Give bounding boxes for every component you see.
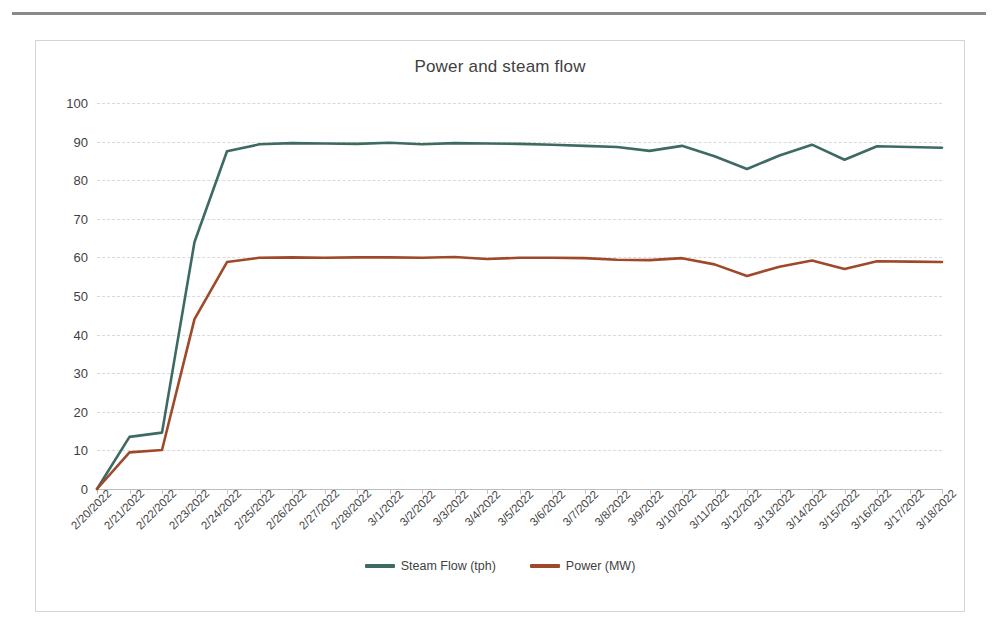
legend-swatch-icon [530,564,560,568]
chart-card: Power and steam flow 0102030405060708090… [35,40,965,612]
series-lines [97,103,942,489]
legend-swatch-icon [365,564,395,568]
series-line [97,257,942,489]
legend-item[interactable]: Power (MW) [530,559,635,573]
plot-area: 0102030405060708090100 [97,103,942,489]
y-axis-tick-label: 100 [66,96,88,111]
y-axis-tick-label: 10 [74,443,88,458]
y-axis-tick-label: 70 [74,211,88,226]
legend-label: Steam Flow (tph) [401,559,496,573]
chart-legend: Steam Flow (tph)Power (MW) [36,559,964,573]
y-axis-tick-label: 20 [74,404,88,419]
series-line [97,143,942,489]
y-axis-tick-label: 40 [74,327,88,342]
y-axis-tick-label: 80 [74,173,88,188]
y-axis-tick-label: 60 [74,250,88,265]
y-axis-tick-label: 50 [74,289,88,304]
legend-item[interactable]: Steam Flow (tph) [365,559,496,573]
y-axis-tick-label: 90 [74,134,88,149]
y-axis-tick-label: 30 [74,366,88,381]
y-axis-tick-label: 0 [81,482,88,497]
chart-title: Power and steam flow [36,57,964,77]
legend-label: Power (MW) [566,559,635,573]
page-top-rule [12,12,986,15]
